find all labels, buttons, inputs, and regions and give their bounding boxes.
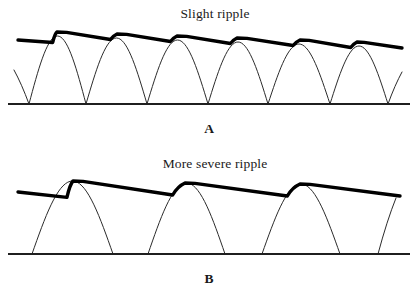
- panel-a-caption: Slight ripple: [180, 6, 249, 21]
- panel-a-label: A: [204, 121, 214, 136]
- panel-b-label: B: [204, 271, 213, 286]
- ripple-comparison-figure: Slight ripple A More severe ripple B: [0, 0, 418, 292]
- figure-canvas: Slight ripple A More severe ripple B: [0, 0, 418, 292]
- panel-b-caption: More severe ripple: [163, 156, 268, 171]
